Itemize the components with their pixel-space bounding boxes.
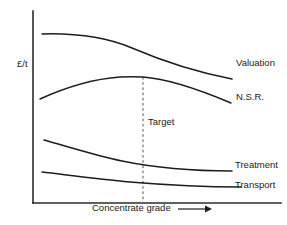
- y-axis-label: £/t: [17, 59, 28, 69]
- target-annotation-label: Target: [148, 117, 174, 127]
- x-axis-arrow-icon: [205, 206, 212, 213]
- series-curve-valuation: [42, 34, 232, 79]
- x-axis-label: Concentrate grade: [92, 203, 171, 213]
- chart-figure: £/t Concentrate grade Valuation N.S.R. T…: [0, 0, 287, 225]
- series-label-nsr: N.S.R.: [236, 92, 264, 102]
- chart-canvas: [0, 0, 287, 225]
- series-label-valuation: Valuation: [236, 58, 275, 68]
- series-curve-nsr: [40, 77, 231, 103]
- series-label-treatment: Treatment: [235, 160, 278, 170]
- series-curve-treatment: [44, 140, 232, 171]
- series-curve-transport: [42, 172, 241, 187]
- series-label-transport: Transport: [235, 180, 275, 190]
